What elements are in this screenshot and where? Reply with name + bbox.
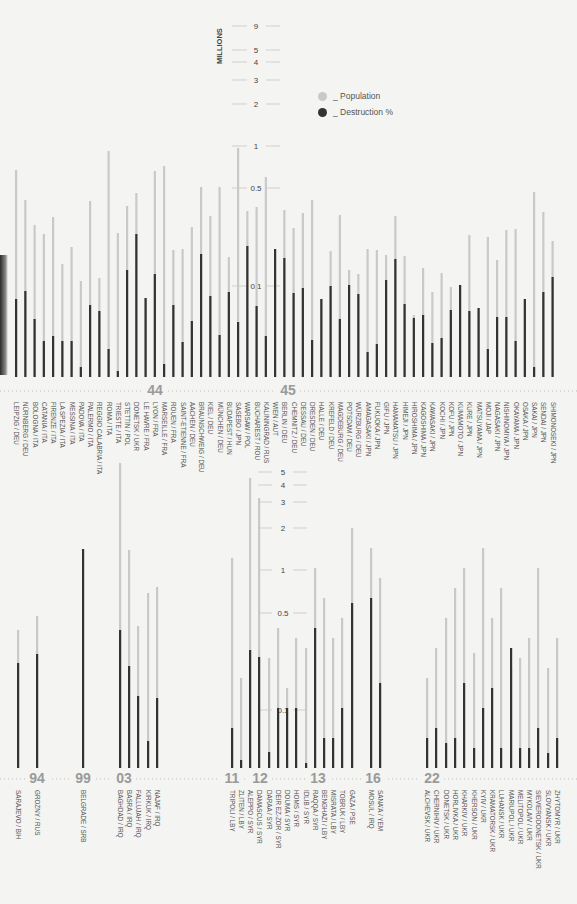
year-marker: 44 [147, 382, 163, 398]
city-label: KYIV / UKR [480, 790, 487, 823]
destruction-bar [351, 603, 353, 768]
destruction-bar [320, 299, 322, 377]
y-tick-label: 4 [281, 481, 286, 490]
city-label: SIEVIERODONETSK / UKR [535, 790, 542, 869]
destruction-bar [283, 258, 285, 377]
population-bar [240, 678, 242, 768]
destruction-bar [258, 657, 260, 768]
city-label: DONETSK / UKR [133, 402, 140, 451]
city-label: DEIR EZ-ZOR / SYR [275, 790, 282, 849]
destruction-dot-icon [318, 108, 327, 117]
city-label: GROZNY / RUS [34, 790, 41, 835]
legend: _ Population _ Destruction % [318, 88, 393, 120]
city-label: SAINT-ETIENNE / FRA [180, 402, 187, 468]
city-label: ALEPPO / SYR [247, 790, 254, 834]
destruction-bar [445, 743, 447, 768]
destruction-bar [137, 696, 139, 768]
legend-item-destruction: _ Destruction % [318, 104, 393, 120]
destruction-bar [459, 285, 461, 377]
destruction-bar [200, 254, 202, 377]
destruction-bar [394, 259, 396, 377]
city-label: CATANIA / ITA [41, 402, 48, 443]
destruction-bar [34, 319, 36, 377]
city-label: ROUEN / FRA [170, 402, 177, 443]
destruction-bar [528, 748, 530, 768]
population-bar [500, 588, 502, 768]
destruction-bar [286, 708, 288, 768]
population-bar [163, 166, 165, 377]
destruction-bar [515, 341, 517, 377]
destruction-bar [542, 292, 544, 377]
city-label: PALERMO / ITA [87, 402, 94, 448]
population-bar [533, 192, 535, 377]
city-label: BELGRADE / SRB [80, 790, 87, 843]
city-label: KALININGRAD / RUS [263, 402, 270, 463]
destruction-bar [556, 738, 558, 768]
city-label: MYKOLAIV / UKR [526, 790, 533, 841]
year-marker: 22 [424, 770, 440, 786]
city-label: BUDAPEST / HUN [226, 402, 233, 455]
destruction-bar [128, 666, 130, 768]
destruction-bar [119, 630, 121, 768]
destruction-bar [147, 741, 149, 768]
destruction-bar [348, 285, 350, 377]
city-label: BAGHDAD / IRQ [116, 790, 124, 838]
city-label: BOLOGNA / ITA [32, 402, 39, 448]
city-label: SASEBO / JPN [235, 402, 242, 445]
destruction-bar [435, 728, 437, 768]
city-label: NISHINOMIYA / JPN [503, 402, 510, 460]
city-label: WÜRZBURG / DEU [355, 402, 362, 458]
city-label: ROMA / ITA [106, 402, 113, 436]
city-label: NÜRNBERG / DEU [22, 402, 29, 457]
destruction-bar [163, 364, 165, 377]
population-dot-icon [318, 92, 327, 101]
destruction-bar [496, 317, 498, 377]
chart-canvas: 9543210.50.1MILLIONSLEIPZIG / DEUNÜRNBER… [0, 0, 577, 904]
city-label: LEIPZIG / DEU [13, 402, 20, 445]
destruction-bar [36, 654, 38, 768]
destruction-bar [311, 340, 313, 377]
destruction-bar [463, 683, 465, 768]
year-marker: 16 [365, 770, 381, 786]
destruction-bar [431, 343, 433, 377]
city-label: MARIUPOL / UKR [508, 790, 515, 842]
destruction-bar [305, 763, 307, 768]
destruction-bar [295, 708, 297, 768]
city-label: HALLE / DEU [318, 402, 325, 441]
year-marker: 11 [225, 770, 240, 786]
city-label: ZHYTOMYR / UKR [554, 790, 561, 844]
city-label: BASRA / IRQ [125, 790, 133, 828]
city-label: SENDAI / JPN [540, 402, 547, 443]
city-label: REGGIO CALABRIA / ITA [96, 402, 103, 475]
city-label: DRESDEN / DEU [309, 402, 316, 452]
city-label: HOMS / SYR [293, 790, 300, 828]
year-marker: 12 [252, 770, 268, 786]
city-label: KUMAMOTO / JPN [457, 402, 464, 457]
destruction-bar [547, 753, 549, 768]
destruction-bar [332, 738, 334, 768]
destruction-bar [82, 549, 84, 768]
city-label: LE HAVRE / FRA [143, 402, 150, 451]
destruction-bar [537, 728, 539, 768]
destruction-bar [256, 306, 258, 377]
city-label: NAJAF / IRQ [153, 790, 161, 826]
destruction-bar [219, 335, 221, 377]
destruction-bar [376, 344, 378, 377]
city-label: POTSDAM / DEU [346, 402, 353, 452]
city-label: DAMASCUS / SYR [256, 790, 263, 844]
destruction-bar [240, 760, 242, 768]
city-label: HAMAMATSU / JPN [392, 402, 399, 459]
destruction-bar [505, 317, 507, 377]
city-label: PADOVA / ITA [78, 402, 85, 442]
city-label: SLOVYANSK / UKR [545, 790, 552, 847]
city-label: FUKUOKA / JPN [374, 402, 381, 450]
city-label: ALCHEVSK / UKR [424, 790, 431, 843]
city-label: AACHEN / DEU [189, 402, 196, 447]
city-label: KAWASAKI / JPN [429, 402, 436, 452]
city-label: HIROSHIMA / JPN [411, 402, 418, 455]
destruction-bar [43, 341, 45, 377]
y-tick-label: 2 [281, 524, 286, 533]
year-marker: 94 [29, 770, 45, 786]
destruction-bar [80, 367, 82, 377]
destruction-bar [491, 688, 493, 768]
